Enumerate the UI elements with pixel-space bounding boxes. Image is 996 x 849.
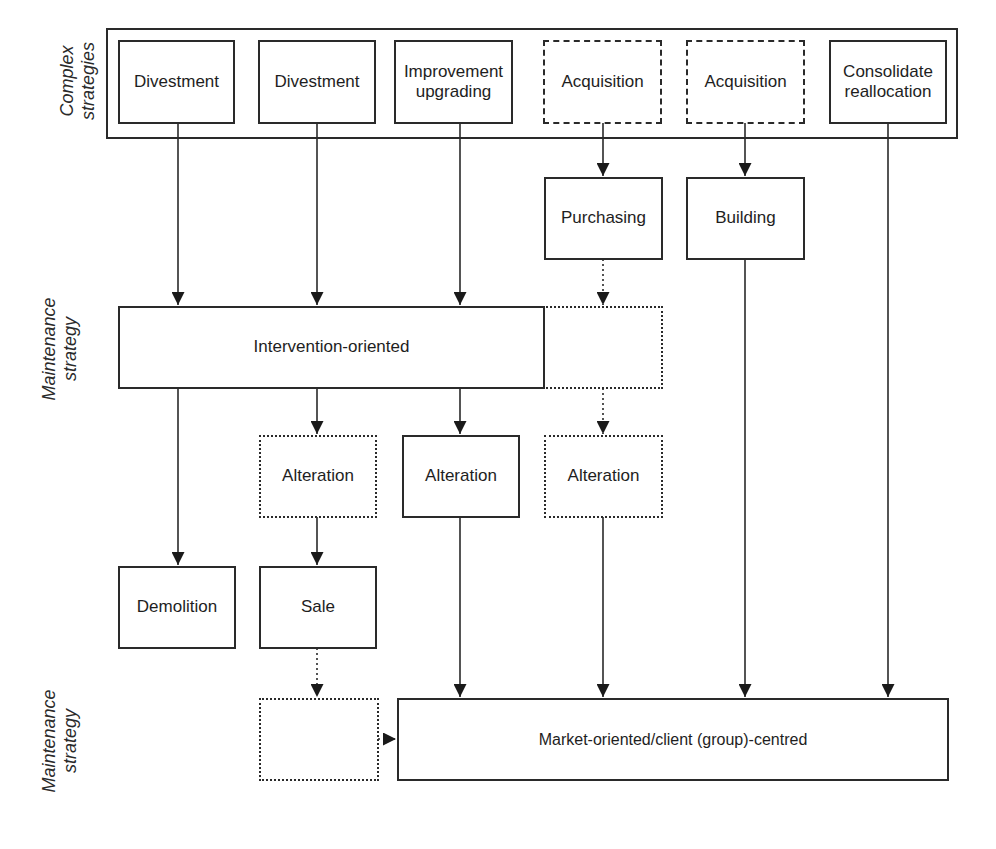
- strategy-consolidate-reallocation: Consolidate reallocation: [829, 40, 947, 124]
- outcome-demolition-label: Demolition: [137, 597, 217, 617]
- strategy-acquisition-2: Acquisition: [686, 40, 805, 124]
- market-placeholder-box: [259, 698, 379, 781]
- method-building: Building: [686, 177, 805, 260]
- alteration-1: Alteration: [259, 435, 377, 518]
- maintenance-market-oriented-label: Market-oriented/client (group)-centred: [539, 730, 808, 749]
- alteration-3: Alteration: [544, 435, 663, 518]
- outcome-sale: Sale: [259, 566, 377, 649]
- strategy-acquisition-2-label: Acquisition: [704, 72, 786, 92]
- method-purchasing-label: Purchasing: [561, 208, 646, 228]
- maintenance-market-oriented: Market-oriented/client (group)-centred: [397, 698, 949, 781]
- strategy-improvement-upgrading-label: Improvement upgrading: [404, 62, 503, 103]
- outcome-demolition: Demolition: [118, 566, 236, 649]
- maintenance-intervention-extension: [543, 306, 663, 389]
- alteration-3-label: Alteration: [568, 466, 640, 486]
- row-label-maintenance-strategy-2: Maintenance strategy: [39, 661, 85, 821]
- strategy-divestment-2-label: Divestment: [274, 72, 359, 92]
- strategy-acquisition-1-label: Acquisition: [561, 72, 643, 92]
- strategy-acquisition-1: Acquisition: [543, 40, 662, 124]
- outcome-sale-label: Sale: [301, 597, 335, 617]
- maintenance-intervention-oriented: Intervention-oriented: [118, 306, 545, 389]
- row-label-maintenance-strategy-1: Maintenance strategy: [39, 269, 85, 429]
- strategy-consolidate-reallocation-label: Consolidate reallocation: [843, 62, 933, 103]
- row-label-complex-strategies: Complex strategies: [57, 16, 103, 146]
- alteration-2-label: Alteration: [425, 466, 497, 486]
- strategy-divestment-1: Divestment: [118, 40, 235, 124]
- maintenance-intervention-oriented-label: Intervention-oriented: [254, 337, 410, 357]
- strategy-improvement-upgrading: Improvement upgrading: [394, 40, 513, 124]
- method-building-label: Building: [715, 208, 776, 228]
- method-purchasing: Purchasing: [544, 177, 663, 260]
- alteration-2: Alteration: [402, 435, 520, 518]
- strategy-divestment-2: Divestment: [258, 40, 376, 124]
- alteration-1-label: Alteration: [282, 466, 354, 486]
- strategy-diagram: Complex strategies Maintenance strategy …: [0, 0, 996, 849]
- strategy-divestment-1-label: Divestment: [134, 72, 219, 92]
